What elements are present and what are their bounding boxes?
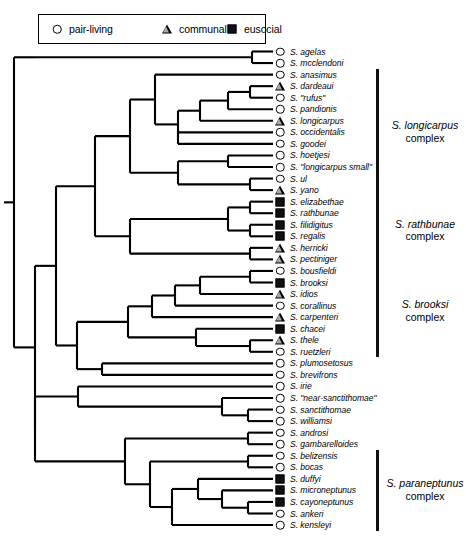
tip-label: S. idios	[290, 289, 318, 299]
tip-label: S. ankeri	[290, 509, 323, 519]
tip-label: S. anasimus	[290, 70, 337, 80]
complex-species-name: S. brooksi	[402, 298, 449, 310]
tip-label: S. cayoneptunus	[290, 497, 353, 507]
complex-species-name: S. paraneptunus	[386, 477, 463, 489]
tip-label: S. ruetzleri	[290, 347, 330, 357]
tip-label: S. belizensis	[290, 451, 338, 461]
tip-label: S. thele	[290, 335, 319, 345]
complex-bracket	[376, 450, 379, 530]
tip-label: S. brevifrons	[290, 370, 338, 380]
tip-label: S. longicarpus	[290, 116, 344, 126]
tip-label: S. agelas	[290, 47, 325, 57]
tip-label: S. gambarelloides	[290, 439, 358, 449]
tip-label: S. goodei	[290, 139, 326, 149]
tip-label: S. duffyi	[290, 474, 321, 484]
open-circle-icon	[273, 519, 287, 532]
tip-label: S. "near-sanctithomae"	[290, 393, 377, 403]
tip-label: S. "longicarpus small"	[290, 162, 372, 172]
tip-label: S. sanctithomae	[290, 405, 351, 415]
tip-label: S. brooksi	[290, 278, 328, 288]
complex-bracket	[376, 196, 379, 265]
complex-word: complex	[384, 490, 466, 503]
tip-label: S. bousfieldi	[290, 266, 336, 276]
tip-label: S. regalis	[290, 231, 325, 241]
tip-label: S. mcclendoni	[290, 58, 343, 68]
tree-branches	[0, 0, 466, 553]
tip-label: S. elizabethae	[290, 197, 344, 207]
complex-label: S. rathbunaecomplex	[384, 218, 466, 243]
tip-label: S. occidentalis	[290, 127, 345, 137]
tip-label: S. irie	[290, 381, 312, 391]
complex-label: S. longicarpuscomplex	[384, 119, 466, 144]
tip-label: S. rathbunae	[290, 208, 339, 218]
complex-word: complex	[384, 230, 466, 243]
tip-label: S. androsi	[290, 428, 328, 438]
tip-label: S. microneptunus	[290, 485, 356, 495]
tip-label: S. hoetjesi	[290, 150, 330, 160]
tree-tip: S. kensleyi	[273, 519, 331, 532]
tip-label: S. ul	[290, 174, 307, 184]
tip-label: S. plumosetosus	[290, 358, 353, 368]
phylogenetic-tree-figure: pair-livingcommunaleusocial S. agelasS. …	[0, 0, 466, 553]
complex-label: S. paraneptunuscomplex	[384, 477, 466, 502]
tip-label: S. dardeaui	[290, 81, 333, 91]
tip-label: S. filidigitus	[290, 220, 333, 230]
tip-label: S. carpenteri	[290, 312, 338, 322]
tip-label: S. herricki	[290, 243, 328, 253]
tip-label: S. corallinus	[290, 301, 336, 311]
complex-species-name: S. longicarpus	[392, 119, 459, 131]
tip-label: S. pandionis	[290, 104, 337, 114]
tip-label: S. williamsi	[290, 416, 332, 426]
complex-word: complex	[384, 132, 466, 145]
tip-label: S. chacei	[290, 324, 325, 334]
complex-species-name: S. rathbunae	[395, 218, 455, 230]
tip-label: S. bocas	[290, 462, 323, 472]
complex-bracket	[376, 69, 379, 196]
tip-label: S. kensleyi	[290, 520, 331, 530]
complex-word: complex	[384, 311, 466, 324]
complex-bracket	[376, 265, 379, 357]
tip-label: S. yano	[290, 185, 319, 195]
tip-label: S. pectiniger	[290, 254, 337, 264]
complex-label: S. brooksicomplex	[384, 298, 466, 323]
tip-label: S. "rufus"	[290, 93, 325, 103]
